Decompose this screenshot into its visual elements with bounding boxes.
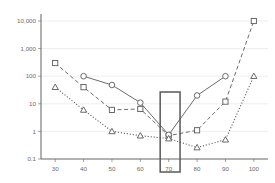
data-point-squares-x50 (109, 107, 114, 112)
data-point-squares-x40 (81, 85, 86, 90)
data-point-circles-x50 (109, 82, 115, 88)
y-tick-label-10: 10 (29, 100, 36, 107)
data-point-circles-x40 (81, 73, 87, 79)
data-point-circles-x90 (223, 73, 229, 79)
x-tick-label-60: 60 (137, 165, 144, 172)
y-tick-label-0.1: 0.1 (27, 155, 36, 162)
data-point-squares-x100 (251, 18, 256, 23)
x-tick-label-40: 40 (80, 165, 87, 172)
y-tick-label-100: 100 (26, 72, 37, 79)
y-tick-label-1,000: 1,000 (21, 45, 37, 52)
log-line-chart: 0.11101001,00010,000 30405060708090100 (0, 0, 275, 183)
x-tick-label-80: 80 (194, 165, 201, 172)
x-tick-label-50: 50 (108, 165, 115, 172)
y-tick-label-10,000: 10,000 (17, 17, 36, 24)
data-point-circles-x80 (194, 93, 200, 99)
chart-container: 0.11101001,00010,000 30405060708090100 (0, 0, 275, 183)
data-point-squares-x60 (138, 106, 143, 111)
data-point-squares-x80 (194, 128, 199, 133)
x-tick-label-30: 30 (52, 165, 59, 172)
data-point-squares-x90 (223, 99, 228, 104)
x-tick-label-70: 70 (165, 165, 172, 172)
x-tick-label-90: 90 (222, 165, 229, 172)
y-tick-label-1: 1 (33, 128, 37, 135)
x-tick-label-100: 100 (249, 165, 260, 172)
data-point-circles-x60 (138, 100, 144, 106)
data-point-squares-x30 (53, 60, 58, 65)
